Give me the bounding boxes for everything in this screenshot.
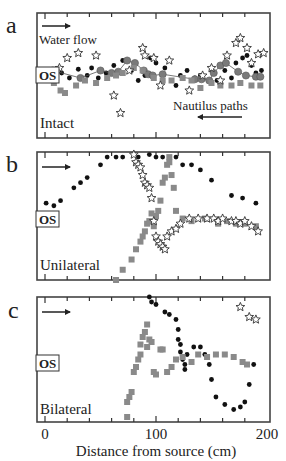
data-point-circle (124, 57, 131, 64)
data-point-dot (189, 162, 194, 167)
data-point-dot (214, 395, 219, 400)
data-point-dot (198, 168, 203, 173)
data-point-dot (176, 337, 181, 342)
data-point-square (137, 352, 143, 358)
data-point-dot (160, 155, 165, 160)
data-point-square (93, 80, 99, 86)
data-point-dot (222, 68, 227, 73)
data-point-dot (162, 66, 167, 71)
data-point-star (194, 214, 203, 222)
data-point-dot (174, 155, 179, 160)
data-point-star (116, 108, 125, 116)
data-point-square (173, 357, 179, 363)
data-point-dot (247, 382, 252, 387)
x-tick-100: 100 (145, 426, 168, 442)
data-point-star (185, 86, 194, 94)
data-point-dot (198, 345, 203, 350)
data-point-dot (178, 350, 183, 355)
data-point-dot (234, 61, 239, 66)
data-point-circle (222, 59, 229, 66)
data-point-dot (176, 327, 181, 332)
data-point-square (189, 359, 195, 365)
data-point-square (228, 83, 234, 89)
data-point-square (137, 342, 143, 348)
os-marker-b: OS (36, 211, 59, 227)
nautilus-paths-label: Nautilus paths (173, 98, 248, 113)
data-point-circle (257, 73, 264, 80)
data-point-dot (111, 63, 116, 68)
data-point-star (147, 193, 156, 201)
water-flow-label: Water flow (39, 32, 97, 47)
data-point-dot (251, 362, 256, 367)
data-point-star (92, 51, 101, 59)
data-point-dot (147, 295, 152, 300)
x-axis-title: Distance from source (cm) (76, 443, 236, 460)
data-point-square (140, 233, 146, 239)
data-point-circle (97, 67, 104, 74)
data-point-square (82, 78, 88, 84)
data-point-dot (231, 407, 236, 412)
data-point-dot (98, 162, 103, 167)
data-point-square (73, 83, 79, 89)
data-point-dot (229, 193, 234, 198)
data-point-dot (71, 185, 76, 190)
data-point-dot (149, 300, 154, 305)
panel-letter-b: b (6, 151, 18, 177)
panel-c: c OS Bilateral (8, 295, 270, 422)
data-point-square (142, 228, 148, 234)
data-point-square (160, 347, 166, 353)
panel-letter-c: c (8, 297, 19, 323)
data-point-square (231, 354, 237, 360)
data-point-star (165, 56, 174, 64)
data-point-dot (174, 83, 179, 88)
data-point-square (153, 372, 159, 378)
data-point-star (74, 48, 83, 56)
data-point-dot (182, 362, 187, 367)
data-point-dot (209, 377, 214, 382)
data-point-square (171, 185, 177, 191)
data-point-dot (174, 317, 179, 322)
data-point-star (138, 170, 147, 178)
data-point-square (209, 80, 215, 86)
panel-c-data (124, 295, 260, 420)
data-point-dot (185, 68, 190, 73)
data-point-square (155, 208, 161, 214)
data-point-dot (105, 155, 110, 160)
data-point-dot (167, 312, 172, 317)
data-point-dot (238, 405, 243, 410)
data-point-dot (254, 201, 259, 206)
data-point-dot (58, 198, 63, 203)
data-point-square (160, 180, 166, 186)
data-point-star (216, 76, 225, 84)
data-point-dot (182, 367, 187, 372)
condition-label-c: Bilateral (40, 401, 92, 417)
data-point-square (133, 364, 139, 370)
data-point-square (120, 267, 126, 273)
data-point-square (133, 246, 139, 252)
data-point-star (247, 58, 256, 66)
data-point-dot (147, 152, 152, 157)
data-point-dot (229, 76, 234, 81)
data-point-square (169, 172, 175, 178)
condition-label-b: Unilateral (40, 257, 100, 273)
data-point-square (204, 354, 210, 360)
data-point-star (63, 53, 72, 61)
data-point-square (149, 339, 155, 345)
data-point-dot (180, 162, 185, 167)
x-tick-200: 200 (256, 426, 279, 442)
panel-a: a Water flow Nautilus paths OS Intact (6, 12, 270, 138)
data-point-square (142, 329, 148, 335)
data-point-square (195, 352, 201, 358)
data-point-dot (209, 178, 214, 183)
data-point-dot (78, 180, 83, 185)
data-point-dot (120, 155, 125, 160)
data-point-star (149, 53, 158, 61)
data-point-square (157, 198, 163, 204)
data-point-star (223, 51, 232, 59)
data-point-square (124, 414, 130, 420)
data-point-square (237, 80, 243, 86)
condition-label-a: Intact (40, 115, 75, 131)
data-point-dot (51, 203, 56, 208)
data-point-dot (154, 302, 159, 307)
data-point-square (129, 389, 135, 395)
